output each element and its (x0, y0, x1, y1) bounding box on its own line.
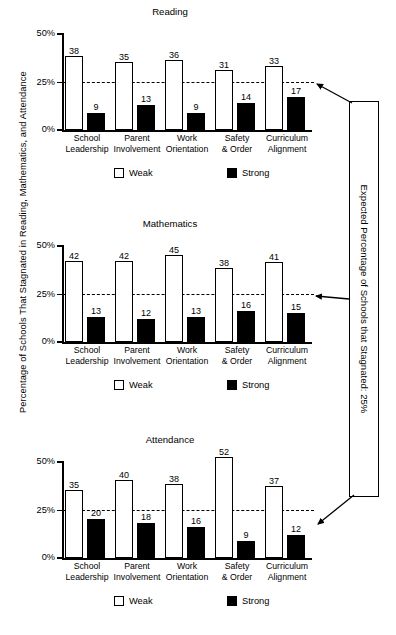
category-label: WorkOrientation (159, 133, 215, 154)
bar-weak: 52 (215, 457, 233, 558)
plot-area: 50% 25% 0% 389351336931143317 (62, 33, 312, 130)
bar-strong: 13 (137, 105, 155, 130)
category-label: Safety& Order (209, 133, 265, 154)
legend-item-strong: Strong (227, 596, 269, 606)
bar-value-label: 36 (169, 51, 179, 60)
x-axis-line (62, 558, 312, 560)
bar-value-label: 37 (269, 477, 279, 486)
legend-swatch-weak (114, 168, 124, 178)
legend: Weak Strong (62, 168, 312, 182)
x-axis-line (62, 130, 312, 132)
bar-group: 4115 (262, 245, 312, 342)
bar-value-label: 9 (93, 103, 98, 112)
legend-label-weak: Weak (129, 168, 153, 178)
bar-group: 529 (212, 461, 262, 558)
legend-label-strong: Strong (242, 596, 269, 606)
bar-strong: 13 (187, 317, 205, 342)
bar-strong: 12 (287, 535, 305, 558)
bar-value-label: 13 (141, 95, 151, 104)
bar-value-label: 14 (241, 93, 251, 102)
bar-value-label: 20 (91, 509, 101, 518)
y-tick-label-0: 0% (42, 337, 55, 346)
category-label: ParentInvolvement (109, 345, 165, 366)
panel-attendance: Attendance 50% 25% 0% 352040183816529371… (0, 428, 340, 635)
y-tick-label-25: 25% (37, 506, 55, 515)
legend-item-weak: Weak (114, 596, 153, 606)
bar-strong: 16 (237, 311, 255, 342)
bar-weak: 31 (215, 70, 233, 130)
bar-group: 4212 (112, 245, 162, 342)
bar-value-label: 13 (191, 307, 201, 316)
bar-value-label: 13 (91, 307, 101, 316)
callout-text: Expected Percentage of Schools that Stag… (359, 185, 370, 414)
legend-swatch-strong (227, 168, 237, 178)
y-tick-label-0: 0% (42, 125, 55, 134)
legend: Weak Strong (62, 380, 312, 394)
bar-weak: 40 (115, 480, 133, 558)
bar-strong: 15 (287, 313, 305, 342)
plot-area: 50% 25% 0% 3520401838165293712 (62, 461, 312, 558)
legend-label-strong: Strong (242, 168, 269, 178)
bar-group: 3114 (212, 33, 262, 130)
legend-swatch-weak (114, 596, 124, 606)
x-axis-line (62, 342, 312, 344)
bar-value-label: 45 (169, 246, 179, 255)
bar-value-label: 9 (193, 103, 198, 112)
category-label: SchoolLeadership (59, 345, 115, 366)
legend-swatch-strong (227, 596, 237, 606)
legend-item-strong: Strong (227, 168, 269, 178)
category-label: SchoolLeadership (59, 133, 115, 154)
legend-label-strong: Strong (242, 380, 269, 390)
panel-title: Attendance (0, 434, 340, 445)
category-label: CurriculumAlignment (259, 133, 315, 154)
y-tick-label-50: 50% (37, 241, 55, 250)
y-tick-label-50: 50% (37, 29, 55, 38)
bar-group: 3816 (162, 461, 212, 558)
y-tick-label-25: 25% (37, 78, 55, 87)
legend: Weak Strong (62, 596, 312, 610)
legend-item-weak: Weak (114, 168, 153, 178)
category-label: WorkOrientation (159, 345, 215, 366)
legend-label-weak: Weak (129, 596, 153, 606)
callout-box: Expected Percentage of Schools that Stag… (349, 101, 379, 497)
panel-title: Mathematics (0, 218, 340, 229)
category-label: WorkOrientation (159, 561, 215, 582)
bar-value-label: 17 (291, 87, 301, 96)
bar-strong: 17 (287, 97, 305, 130)
bar-weak: 37 (265, 486, 283, 558)
category-label: CurriculumAlignment (259, 345, 315, 366)
bar-value-label: 35 (119, 53, 129, 62)
bar-value-label: 12 (141, 309, 151, 318)
chart-figure: Percentage of Schools That Stagnated in … (0, 0, 396, 635)
bar-strong: 14 (237, 103, 255, 130)
bar-weak: 42 (65, 261, 83, 342)
bar-weak: 38 (215, 268, 233, 342)
bar-group: 3816 (212, 245, 262, 342)
legend-swatch-strong (227, 380, 237, 390)
bar-group: 3712 (262, 461, 312, 558)
bar-group: 4018 (112, 461, 162, 558)
panel-mathematics: Mathematics 50% 25% 0% 42134212451338164… (0, 212, 340, 424)
plot-area: 50% 25% 0% 42134212451338164115 (62, 245, 312, 342)
bar-weak: 42 (115, 261, 133, 342)
bar-strong: 9 (237, 541, 255, 558)
legend-label-weak: Weak (129, 380, 153, 390)
bar-value-label: 15 (291, 303, 301, 312)
bar-weak: 33 (265, 66, 283, 130)
bar-value-label: 42 (69, 252, 79, 261)
bar-value-label: 16 (191, 517, 201, 526)
bar-weak: 45 (165, 255, 183, 342)
bar-group: 3513 (112, 33, 162, 130)
bar-strong: 12 (137, 319, 155, 342)
bar-value-label: 42 (119, 252, 129, 261)
bar-weak: 38 (165, 484, 183, 558)
y-tick-label-25: 25% (37, 290, 55, 299)
category-label: CurriculumAlignment (259, 561, 315, 582)
panel-reading: Reading 50% 25% 0% 389351336931143317 We… (0, 0, 340, 212)
panel-title: Reading (0, 6, 340, 17)
bar-strong: 9 (87, 113, 105, 130)
bar-strong: 20 (87, 519, 105, 558)
bar-value-label: 16 (241, 301, 251, 310)
bar-group: 369 (162, 33, 212, 130)
bar-group: 3520 (62, 461, 112, 558)
